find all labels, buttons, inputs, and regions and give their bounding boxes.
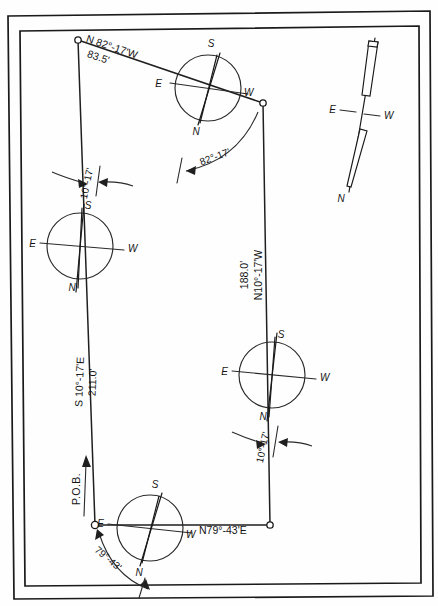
point-of-beginning-callout: P.O.B. [70, 455, 91, 516]
angle-label-top-right: 82°-17' [198, 146, 231, 167]
compass-left-needle-inner [78, 208, 82, 288]
angle-arrow-bottom-left-start [95, 529, 104, 540]
vertex-top-left [75, 37, 81, 43]
angle-arrow-mid-right-b [278, 438, 288, 447]
compass-bottom-label-west: W [186, 529, 197, 540]
vertex-top-right [260, 100, 266, 106]
needle-label-north: N [337, 193, 345, 204]
label-group-course-east: N10°-17'W 188.0' [238, 250, 264, 301]
compass-bottom-label-south: S [152, 479, 159, 490]
compass-right-label-south: S [278, 329, 285, 340]
compass-right-label-north: N [259, 411, 267, 422]
needle-axis-east-tick [340, 110, 356, 112]
compass-top-label-west: W [244, 87, 255, 98]
needle-axis-west-tick [364, 114, 380, 116]
compass-right-needle-inner [269, 337, 275, 417]
bearing-label-west: S 10°-17'E [72, 357, 86, 407]
distance-label-west: 211.0' [86, 368, 99, 396]
angle-arrow-upper-left-b [98, 178, 108, 187]
distance-label-east: 188.0' [238, 261, 250, 289]
needle-label-east: E [329, 104, 336, 115]
compass-top-label-south: S [208, 38, 215, 49]
angle-arrow-top-right [186, 166, 196, 175]
needle-south-blade-cap [368, 41, 378, 47]
compass-left-axis-ew [40, 243, 124, 250]
angle-label-bottom-left: 79°-43' [93, 544, 124, 573]
plat-canvas: S N E W S N E W S N E W [0, 0, 438, 606]
compass-left-label-north: N [68, 282, 76, 293]
deflection-angle-upper-left: 10°-17' [52, 166, 133, 200]
compass-left-label-east: E [29, 238, 36, 249]
compass-bottom-label-north: N [135, 567, 143, 578]
compass-rose-right: S N E W [221, 329, 331, 422]
bearing-label-south: N79°-43'E [199, 524, 247, 536]
magnetic-needle-diagram: E W N [329, 38, 395, 204]
needle-south-blade [362, 41, 378, 96]
pob-leader-line [84, 463, 86, 516]
angle-tick-mid-right [273, 426, 278, 457]
pob-label: P.O.B. [70, 473, 82, 505]
compass-top-label-north: N [192, 126, 200, 137]
angle-arc-top-right [186, 112, 258, 171]
pob-leader-arrow [82, 455, 91, 467]
needle-north-blade [347, 129, 367, 187]
compass-bottom-label-east: E [97, 518, 104, 529]
survey-plat-drawing: S N E W S N E W S N E W [0, 0, 438, 606]
deflection-angle-bottom-left: 79°-43' [93, 529, 150, 598]
deflection-angle-mid-right: 10°-17' [232, 426, 312, 464]
course-line-west [78, 40, 95, 525]
angle-tick-bottom-left [139, 578, 145, 598]
vertex-bottom-right [267, 522, 273, 528]
deflection-angle-top-right: 82°-17' [177, 112, 258, 183]
drawing-frame [8, 11, 433, 599]
angle-label-upper-left: 10°-17' [78, 167, 95, 200]
angle-tick-top-right [177, 158, 182, 183]
angle-tick-upper-left [96, 166, 100, 196]
compass-top-label-east: E [155, 78, 162, 89]
compass-right-axis-ew [232, 371, 316, 379]
needle-label-west: W [384, 110, 395, 121]
compass-right-label-east: E [221, 366, 228, 377]
compass-rose-top: S N E W [155, 38, 255, 137]
bearing-label-east: N10°-17'W [252, 250, 264, 301]
compass-left-label-south: S [85, 200, 92, 211]
compass-right-label-west: W [320, 372, 331, 383]
label-group-course-north: N 82°-17'W 83.5' [80, 32, 139, 74]
label-group-course-west: S 10°-17'E 211.0' [72, 357, 99, 408]
compass-left-label-west: W [128, 243, 139, 254]
